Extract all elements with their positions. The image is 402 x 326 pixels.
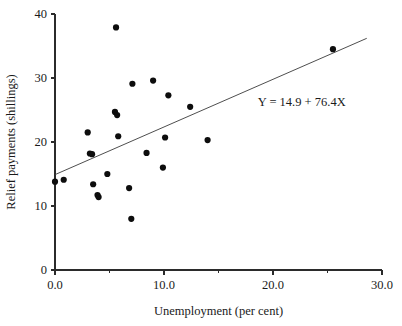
- y-axis-tick-label: 0: [41, 263, 47, 277]
- data-point: [96, 194, 102, 200]
- data-point: [187, 104, 193, 110]
- data-point: [126, 185, 132, 191]
- data-point: [115, 133, 121, 139]
- data-points: [52, 24, 336, 222]
- x-axis-tick-label: 10.0: [153, 278, 175, 292]
- x-axis-title: Unemployment (per cent): [154, 304, 283, 318]
- data-point: [52, 179, 58, 185]
- data-point: [104, 171, 110, 177]
- data-point: [330, 46, 336, 52]
- data-point: [89, 151, 95, 157]
- data-point: [129, 81, 135, 87]
- data-point: [61, 177, 67, 183]
- data-point: [162, 134, 168, 140]
- axes: [55, 14, 382, 270]
- x-axis-tick-label: 30.0: [371, 278, 393, 292]
- data-point: [85, 129, 91, 135]
- data-point: [114, 112, 120, 118]
- y-axis-tick-label: 40: [35, 7, 48, 21]
- x-axis-tick-label: 0.0: [47, 278, 63, 292]
- data-point: [113, 24, 119, 30]
- data-point: [90, 181, 96, 187]
- y-axis-title: Relief payments (shillings): [4, 74, 18, 209]
- regression-equation-annotation: Y = 14.9 + 76.4X: [258, 95, 346, 109]
- scatter-plot-figure: 0102030400.010.020.030.0 Y = 14.9 + 76.4…: [0, 0, 402, 326]
- y-axis-tick-label: 20: [35, 135, 48, 149]
- x-axis-tick-label: 20.0: [262, 278, 284, 292]
- data-point: [143, 150, 149, 156]
- data-point: [150, 77, 156, 83]
- data-point: [160, 165, 166, 171]
- plot-canvas: 0102030400.010.020.030.0 Y = 14.9 + 76.4…: [0, 0, 402, 326]
- y-axis-tick-label: 10: [35, 199, 48, 213]
- data-point: [128, 216, 134, 222]
- data-point: [205, 137, 211, 143]
- data-point: [165, 92, 171, 98]
- y-axis-tick-label: 30: [35, 71, 48, 85]
